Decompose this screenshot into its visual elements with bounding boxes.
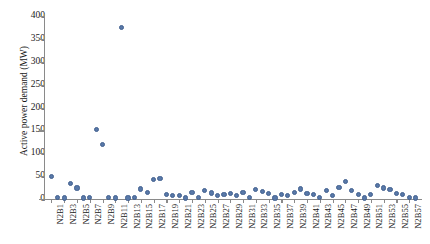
data-point	[49, 174, 54, 179]
data-point	[247, 195, 252, 200]
x-tick-mark	[218, 199, 219, 203]
data-point	[292, 190, 297, 195]
data-point	[298, 186, 303, 191]
y-tick-label: 300	[19, 56, 45, 66]
data-point	[100, 142, 105, 147]
x-tick-mark	[384, 199, 385, 203]
data-point	[304, 191, 309, 196]
x-tick-mark	[205, 199, 206, 203]
y-tick-label: 350	[19, 33, 45, 43]
data-point	[407, 195, 412, 200]
x-tick-label: N2B5	[81, 204, 91, 225]
x-tick-mark	[77, 199, 78, 203]
y-tick-label: 150	[19, 124, 45, 134]
x-tick-label: N2B19	[170, 204, 180, 229]
x-tick-label: N2B13	[132, 204, 142, 229]
data-point	[125, 195, 130, 200]
data-point	[221, 192, 226, 197]
x-tick-label: N2B1	[55, 204, 65, 225]
data-point	[362, 195, 367, 200]
x-tick-label: N2B51	[374, 204, 384, 229]
x-tick-mark	[307, 199, 308, 203]
x-tick-label: N2B11	[119, 204, 129, 229]
y-tick-label: 50	[19, 170, 45, 180]
x-tick-label: N2B31	[247, 204, 257, 229]
data-point	[375, 183, 380, 188]
x-tick-mark	[243, 199, 244, 203]
x-tick-mark	[294, 199, 295, 203]
x-tick-mark	[281, 199, 282, 203]
x-tick-label: N2B23	[196, 204, 206, 229]
data-point	[157, 176, 162, 181]
x-tick-label: N2B15	[144, 204, 154, 229]
x-tick-label: N2B21	[183, 204, 193, 229]
x-tick-mark	[166, 199, 167, 203]
x-tick-mark	[230, 199, 231, 203]
x-tick-label: N2B9	[106, 204, 116, 225]
x-tick-mark	[51, 199, 52, 203]
y-tick-label: 250	[19, 79, 45, 89]
data-point	[279, 192, 284, 197]
x-tick-label: N2B57	[413, 204, 423, 229]
y-tick-label: 200	[19, 102, 45, 112]
x-tick-mark	[141, 199, 142, 203]
x-tick-label: N2B43	[323, 204, 333, 229]
x-tick-mark	[192, 199, 193, 203]
scatter-chart: Active power demand (MW) 050100150200250…	[0, 0, 430, 244]
x-tick-label: N2B7	[93, 204, 103, 225]
x-tick-label: N2B41	[311, 204, 321, 229]
plot-area	[45, 16, 422, 199]
x-tick-label: N2B29	[234, 204, 244, 229]
y-tick-label: 100	[19, 147, 45, 157]
x-tick-label: N2B47	[349, 204, 359, 229]
x-tick-label: N2B45	[336, 204, 346, 229]
x-tick-label: N2B25	[208, 204, 218, 229]
data-point	[164, 192, 169, 197]
data-point	[330, 193, 335, 198]
data-point	[81, 195, 86, 200]
x-tick-mark	[396, 199, 397, 203]
x-tick-mark	[371, 199, 372, 203]
y-tick-label: 0	[19, 193, 45, 203]
x-tick-mark	[179, 199, 180, 203]
x-tick-label: N2B17	[157, 204, 167, 229]
data-point	[145, 190, 150, 195]
x-tick-mark	[154, 199, 155, 203]
data-point	[381, 185, 386, 190]
data-point	[413, 195, 418, 200]
data-point	[356, 192, 361, 197]
data-point	[74, 185, 79, 190]
x-tick-label: N2B49	[362, 204, 372, 229]
x-tick-mark	[358, 199, 359, 203]
data-point	[62, 195, 67, 200]
x-tick-label: N2B37	[285, 204, 295, 229]
data-point	[94, 127, 99, 132]
x-tick-mark	[256, 199, 257, 203]
x-tick-label: N2B55	[400, 204, 410, 229]
data-point	[272, 195, 277, 200]
x-tick-label: N2B27	[221, 204, 231, 229]
x-tick-mark	[333, 199, 334, 203]
data-point	[189, 190, 194, 195]
x-tick-label: N2B39	[298, 204, 308, 229]
data-point	[240, 190, 245, 195]
y-axis-ticks: 050100150200250300350400	[0, 0, 45, 244]
data-point	[113, 195, 118, 200]
data-point	[183, 195, 188, 200]
x-tick-label: N2B3	[68, 204, 78, 225]
data-point	[228, 191, 233, 196]
x-tick-label: N2B33	[259, 204, 269, 229]
y-tick-label: 400	[19, 10, 45, 20]
x-tick-label: N2B35	[272, 204, 282, 229]
x-tick-label: N2B53	[387, 204, 397, 229]
x-tick-mark	[103, 199, 104, 203]
x-tick-mark	[345, 199, 346, 203]
data-point	[336, 185, 341, 190]
data-point	[209, 190, 214, 195]
data-point	[138, 186, 143, 191]
x-tick-mark	[269, 199, 270, 203]
